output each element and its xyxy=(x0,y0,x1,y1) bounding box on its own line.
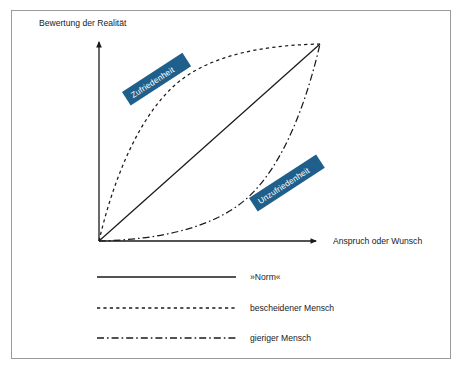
legend: »Norm« bescheidener Mensch gieriger Mens… xyxy=(97,272,334,343)
legend-label-bescheidener-mensch: bescheidener Mensch xyxy=(250,303,334,313)
legend-label-norm: »Norm« xyxy=(250,272,281,282)
banner-zufriedenheit-label: Zufriedenheit xyxy=(129,65,176,100)
figure-root: Bewertung der Realität Anspruch oder Wun… xyxy=(0,0,463,371)
legend-item-bescheidener-mensch: bescheidener Mensch xyxy=(97,303,334,313)
legend-item-gieriger-mensch: gieriger Mensch xyxy=(97,333,311,343)
chart-canvas: Bewertung der Realität Anspruch oder Wun… xyxy=(0,0,463,371)
banner-unzufriedenheit: Unzufriedenheit xyxy=(249,154,325,211)
banner-unzufriedenheit-label: Unzufriedenheit xyxy=(256,166,311,206)
curves-group xyxy=(99,44,320,241)
y-axis-label: Bewertung der Realität xyxy=(39,18,127,28)
x-axis-label: Anspruch oder Wunsch xyxy=(333,236,422,246)
legend-label-gieriger-mensch: gieriger Mensch xyxy=(250,333,311,343)
legend-item-norm: »Norm« xyxy=(97,272,281,282)
banner-zufriedenheit: Zufriedenheit xyxy=(122,53,191,106)
